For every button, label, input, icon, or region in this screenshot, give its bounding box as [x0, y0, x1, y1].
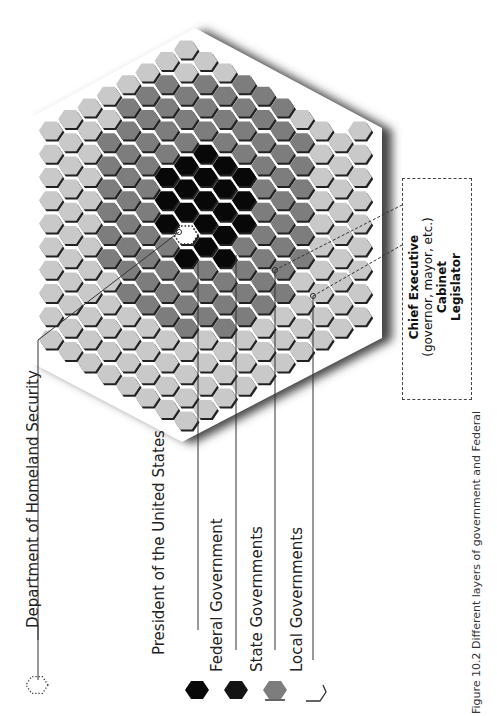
callout-text: Chief Executive (governor, mayor, etc.) …	[407, 177, 463, 397]
government-layers-diagram: Department of Homeland Security Presiden…	[0, 0, 497, 716]
legend-label-dhs: Department of Homeland Security	[24, 370, 42, 628]
legislator-label: Legislator	[449, 177, 463, 397]
figure-caption: Figure 10.2 Different layers of governme…	[470, 411, 483, 714]
legend-label-local: Local Governments	[288, 527, 306, 672]
legend-label-federal: Federal Government	[208, 518, 226, 672]
callout-box: Chief Executive (governor, mayor, etc.) …	[402, 178, 472, 400]
chief-executive-examples: (governor, mayor, etc.)	[421, 177, 435, 397]
legend-label-president: President of the United States	[150, 430, 168, 655]
legend-label-state: State Governments	[248, 526, 266, 672]
chief-executive-label: Chief Executive	[407, 177, 421, 397]
cabinet-label: Cabinet	[435, 177, 449, 397]
